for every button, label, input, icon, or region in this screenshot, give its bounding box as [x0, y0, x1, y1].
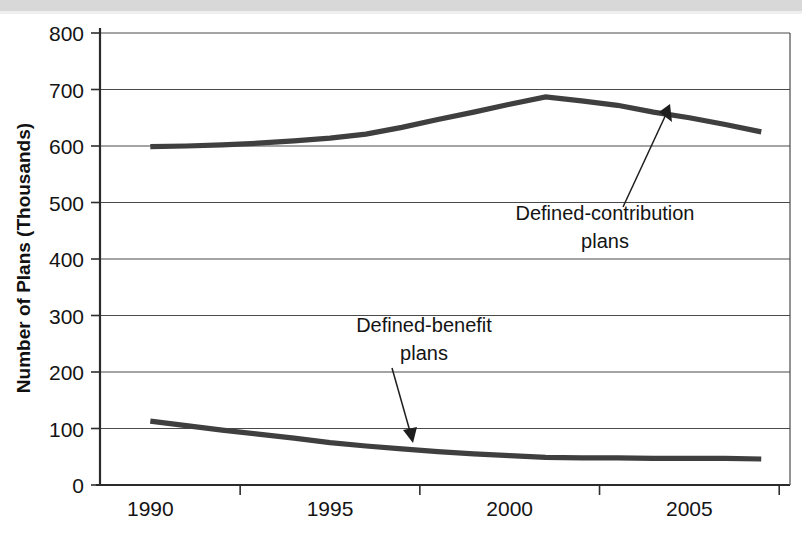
y-tick-label-500: 500 [49, 192, 84, 215]
x-tick-label-1995: 1995 [307, 497, 354, 520]
y-tick-label-400: 400 [49, 248, 84, 271]
y-tick-label-800: 800 [49, 22, 84, 45]
line-chart: 0100200300400500600700800 19901995200020… [0, 0, 802, 535]
defined-contribution-label-line2: plans [581, 230, 629, 252]
x-tick-label-2000: 2000 [486, 497, 533, 520]
x-axis-tick-labels: 1990199520002005 [127, 497, 713, 520]
y-axis-tick-labels: 0100200300400500600700800 [49, 22, 84, 497]
chart-figure: 0100200300400500600700800 19901995200020… [0, 0, 802, 535]
defined-benefit-label-line2: plans [400, 342, 448, 364]
y-tick-label-700: 700 [49, 79, 84, 102]
y-tick-label-100: 100 [49, 418, 84, 441]
x-tick-label-1990: 1990 [127, 497, 174, 520]
defined-benefit-label-line1: Defined-benefit [356, 314, 492, 336]
y-tick-label-300: 300 [49, 305, 84, 328]
y-axis-ticks [91, 33, 100, 485]
y-axis-title: Number of Plans (Thousands) [13, 123, 34, 393]
y-tick-label-600: 600 [49, 135, 84, 158]
defined-contribution-label-line1: Defined-contribution [516, 202, 695, 224]
y-tick-label-200: 200 [49, 361, 84, 384]
x-tick-label-2005: 2005 [666, 497, 713, 520]
x-axis-ticks [240, 485, 779, 495]
y-tick-label-0: 0 [72, 474, 84, 497]
